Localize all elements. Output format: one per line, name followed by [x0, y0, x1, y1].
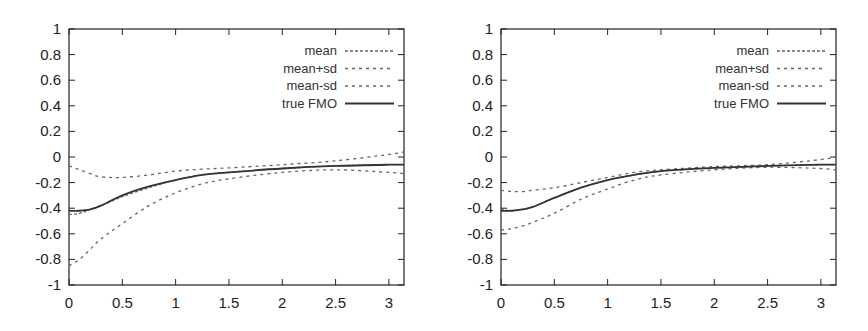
y-tick-label: 0	[485, 148, 493, 165]
x-tick-label: 0.5	[544, 294, 565, 311]
y-tick-label: -1	[480, 276, 493, 293]
x-tick-label: 2.5	[757, 294, 778, 311]
x-tick-label: 2	[710, 294, 718, 311]
legend-label: mean	[736, 43, 769, 58]
y-tick-label: 0.2	[472, 122, 493, 139]
y-tick-label: 0.8	[472, 46, 493, 63]
y-tick-label: -0.6	[467, 225, 493, 242]
y-tick-label: 0.6	[472, 71, 493, 88]
x-tick-label: 0	[497, 294, 505, 311]
plot-frame	[501, 29, 836, 285]
y-tick-label: -0.4	[467, 199, 493, 216]
chart-right: 10.80.60.40.20-0.2-0.4-0.6-0.8-100.511.5…	[0, 0, 434, 331]
x-tick-label: 3	[817, 294, 825, 311]
x-tick-label: 1	[603, 294, 611, 311]
legend-label: mean-sd	[718, 78, 769, 93]
y-tick-label: -0.8	[467, 250, 493, 267]
chart-right-svg: 10.80.60.40.20-0.2-0.4-0.6-0.8-100.511.5…	[0, 0, 868, 331]
y-tick-label: -0.2	[467, 174, 493, 191]
y-tick-label: 1	[485, 20, 493, 37]
legend-label: true FMO	[714, 96, 769, 111]
legend-label: mean+sd	[715, 61, 769, 76]
y-tick-label: 0.4	[472, 97, 493, 114]
x-tick-label: 1.5	[651, 294, 672, 311]
